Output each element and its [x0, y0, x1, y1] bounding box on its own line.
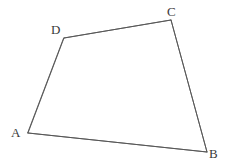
quadrilateral-outline — [28, 20, 207, 152]
edge-c-d — [64, 20, 171, 38]
quadrilateral-drawing — [0, 0, 230, 168]
geometry-figure-canvas: A B C D — [0, 0, 230, 168]
vertex-label-d: D — [51, 23, 60, 36]
vertex-label-a: A — [11, 126, 20, 139]
edge-b-c — [171, 20, 207, 152]
edge-a-b — [28, 133, 207, 152]
vertex-label-b: B — [209, 147, 218, 160]
vertex-label-c: C — [167, 5, 176, 18]
edge-d-a — [28, 38, 64, 133]
